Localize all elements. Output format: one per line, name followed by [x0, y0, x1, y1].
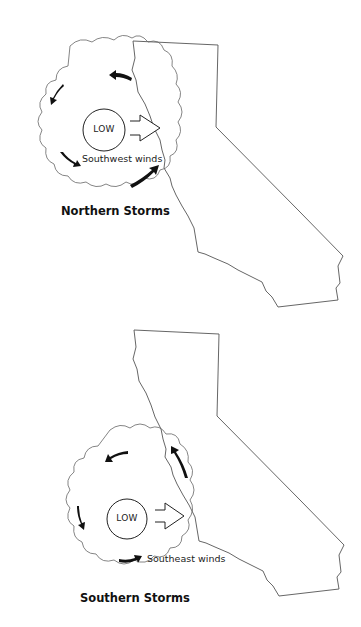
- circulation-arrow-icon: [109, 70, 132, 81]
- circulation-arrow-icon: [77, 506, 85, 530]
- storm-cloud-outline: [66, 424, 194, 564]
- circulation-arrows: [77, 446, 188, 563]
- circulation-arrow-icon: [171, 446, 188, 478]
- panel-title: Northern Storms: [61, 204, 170, 218]
- circulation-arrow-icon: [105, 451, 128, 462]
- circulation-arrow-icon: [130, 165, 159, 188]
- diagram-canvas: [0, 0, 361, 627]
- northern-panel: [38, 35, 343, 307]
- california-map-outline: [132, 41, 343, 307]
- circulation-arrow-icon: [119, 555, 142, 563]
- panel-title: Southern Storms: [80, 591, 190, 605]
- wind-direction-arrow-icon: [155, 503, 184, 529]
- low-pressure-label: LOW: [84, 124, 124, 134]
- wind-label: Southeast winds: [147, 553, 225, 564]
- low-pressure-label: LOW: [107, 513, 147, 523]
- circulation-arrow-icon: [50, 84, 64, 105]
- wind-label: Southwest winds: [82, 153, 162, 164]
- circulation-arrow-icon: [60, 152, 81, 167]
- storm-diagram: LOW Southwest winds Northern Storms LOW …: [0, 0, 361, 627]
- wind-direction-arrow-icon: [130, 115, 160, 141]
